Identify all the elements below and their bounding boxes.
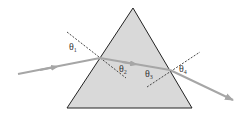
prism-diagram: θ1 θ2 θ3 θ4 (0, 0, 240, 117)
theta1-label: θ1 (69, 41, 77, 53)
prism (67, 8, 192, 108)
incident-ray (18, 58, 100, 74)
theta4-label: θ4 (179, 63, 187, 75)
